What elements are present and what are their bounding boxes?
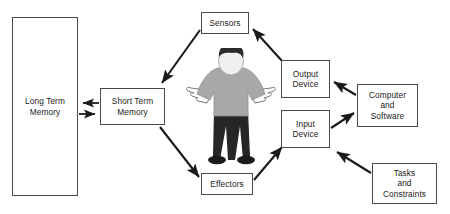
node-tasks-and-constraints[interactable]: Tasks and Constraints <box>372 163 437 204</box>
node-long-term-memory[interactable]: Long Term Memory <box>12 17 78 196</box>
arrow-input-to-computer <box>331 113 354 128</box>
node-label-input-device: Input Device <box>293 119 319 140</box>
legs-shape <box>208 110 255 164</box>
arrow-computer-to-output <box>334 82 356 95</box>
node-label-effectors: Effectors <box>210 179 244 189</box>
node-label-output-device: Output Device <box>293 69 319 90</box>
node-effectors[interactable]: Effectors <box>201 173 253 195</box>
node-label-long-term-memory: Long Term Memory <box>25 96 65 117</box>
node-short-term-memory[interactable]: Short Term Memory <box>100 88 165 125</box>
node-sensors[interactable]: Sensors <box>201 12 249 34</box>
node-input-device[interactable]: Input Device <box>281 110 330 148</box>
node-label-short-term-memory: Short Term Memory <box>112 96 153 117</box>
head-shape <box>219 48 244 75</box>
arrow-tasks-to-input <box>337 152 371 173</box>
node-label-tasks-and-constraints: Tasks and Constraints <box>383 168 426 199</box>
person-shrugging-figure <box>185 48 277 173</box>
node-label-sensors: Sensors <box>209 18 240 28</box>
node-label-computer-and-software: Computer and Software <box>369 90 406 121</box>
node-computer-and-software[interactable]: Computer and Software <box>357 84 418 127</box>
node-output-device[interactable]: Output Device <box>281 60 330 98</box>
diagram-canvas: Long Term Memory Short Term Memory Senso… <box>0 0 450 214</box>
